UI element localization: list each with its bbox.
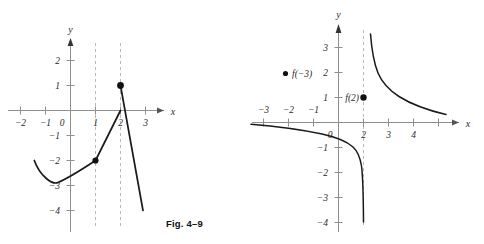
curve-parabola-branch <box>34 161 95 183</box>
annotation-dot-f-2 <box>360 94 366 100</box>
x-axis-arrow <box>157 108 164 114</box>
annotation-dot-f-neg-3 <box>283 71 288 76</box>
y-tick-label-zero: 0 <box>60 118 65 128</box>
y-tick-label: −1 <box>49 131 60 141</box>
y-axis-label: y <box>67 24 73 35</box>
y-tick-label: 2 <box>323 68 328 78</box>
x-tick-label: −2 <box>15 118 26 128</box>
figure-caption-fig-4-9: Fig. 4–9 <box>166 218 203 229</box>
x-tick-label: 4 <box>411 130 416 140</box>
y-tick-label: −4 <box>317 218 328 228</box>
x-tick-label: −1 <box>308 105 319 115</box>
y-tick-label: −4 <box>49 206 60 216</box>
y-tick-label: 1 <box>55 81 60 91</box>
x-tick-label: 3 <box>385 130 391 140</box>
y-tick-label: −1 <box>317 143 328 153</box>
y-axis-arrow <box>68 38 74 46</box>
x-axis-arrow <box>452 120 459 126</box>
x-tick-label: 2 <box>361 130 366 140</box>
annotation-label-f-neg-3: f(−3) <box>292 69 312 80</box>
x-tick-label: −2 <box>283 105 294 115</box>
curve-rising-segment <box>96 111 121 161</box>
y-axis-arrow <box>336 24 342 33</box>
y-tick-label: −3 <box>317 193 328 203</box>
y-tick-label: −2 <box>49 156 60 166</box>
figure-panel-fig-4-10: −3 −2 −1 0 2 3 4 3 2 1 −1 −2 −3 −4 x y f… <box>242 0 484 244</box>
curve-left-branch <box>251 124 364 222</box>
data-point-dot <box>117 82 124 89</box>
y-tick-label: −2 <box>317 168 328 178</box>
y-tick-label: 2 <box>55 56 60 66</box>
y-tick-label: 1 <box>323 93 328 103</box>
y-tick-label: 3 <box>322 43 328 53</box>
x-axis-label: x <box>170 106 176 117</box>
x-axis-label: x <box>465 118 471 129</box>
y-axis-label: y <box>335 9 341 20</box>
curve-right-branch <box>371 34 447 115</box>
x-tick-label: −3 <box>258 105 269 115</box>
data-point-dot <box>92 157 98 163</box>
x-tick-label: 3 <box>142 118 148 128</box>
plot-canvas-fig-4-10: −3 −2 −1 0 2 3 4 3 2 1 −1 −2 −3 −4 x y f… <box>242 0 484 244</box>
curve-falling-segment <box>121 86 144 211</box>
x-tick-label: −1 <box>40 118 51 128</box>
x-tick-label: 1 <box>93 118 98 128</box>
plot-canvas-fig-4-9: −2 −1 1 2 3 2 1 0 −1 −2 −3 −4 x y <box>0 0 242 244</box>
x-tick-label: 2 <box>118 118 123 128</box>
annotation-label-f-2: f(2) <box>345 93 359 104</box>
figure-panel-fig-4-9: −2 −1 1 2 3 2 1 0 −1 −2 −3 −4 x y Fig. 4… <box>0 0 242 244</box>
